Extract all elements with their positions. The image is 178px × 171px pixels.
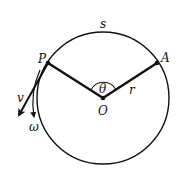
- center-dot: [101, 96, 106, 101]
- velocity-label: v: [17, 91, 24, 105]
- point-a-label: A: [160, 51, 170, 65]
- arc-label: s: [100, 17, 106, 31]
- angle-label: θ: [99, 82, 107, 96]
- angular-velocity-label: ω: [29, 120, 39, 134]
- angular-velocity-arrow: [33, 70, 40, 117]
- circular-motion-diagram: s P A O θ r v ω: [0, 0, 178, 171]
- point-p-label: P: [37, 52, 47, 66]
- radius-label: r: [129, 83, 136, 97]
- center-label: O: [98, 104, 108, 118]
- point-a-dot: [155, 61, 160, 66]
- radius-op: [48, 63, 103, 98]
